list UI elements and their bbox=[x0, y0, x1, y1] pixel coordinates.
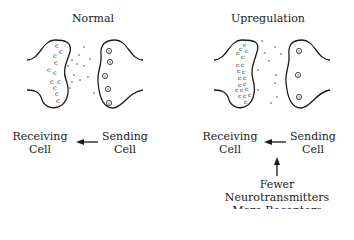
svg-text:c: c bbox=[238, 92, 242, 99]
signal-arrow-normal bbox=[76, 139, 98, 145]
neurotransmitters bbox=[257, 40, 281, 103]
vesicles bbox=[295, 48, 301, 99]
neurotransmitters bbox=[67, 46, 94, 93]
vesicles bbox=[102, 48, 112, 105]
receptors: c c c c c c c c c c c bbox=[47, 42, 63, 105]
svg-text:c: c bbox=[56, 97, 60, 105]
svg-text:c: c bbox=[47, 66, 51, 74]
sending-cell-label-upregulation: Sending Cell bbox=[288, 130, 338, 156]
svg-text:c: c bbox=[248, 91, 252, 98]
svg-text:c: c bbox=[244, 98, 248, 105]
upregulation-annotation: Fewer Neurotransmitters More Receptors bbox=[207, 178, 347, 209]
sending-cell-label-normal: Sending Cell bbox=[100, 130, 150, 156]
svg-text:c: c bbox=[59, 48, 63, 56]
receiving-cell-label-normal: Receiving Cell bbox=[10, 130, 70, 156]
receiving-cell-label-upregulation: Receiving Cell bbox=[200, 130, 260, 156]
svg-text:c: c bbox=[241, 53, 245, 60]
sending-cell-membrane bbox=[286, 40, 330, 108]
svg-text:c: c bbox=[54, 59, 58, 67]
svg-text:c: c bbox=[237, 67, 241, 74]
signal-arrow-upregulation bbox=[264, 139, 286, 145]
svg-text:c: c bbox=[57, 78, 61, 86]
svg-text:c: c bbox=[245, 47, 249, 54]
receptors: c c c c c c c c c c c c c c c c c c c c bbox=[235, 41, 252, 105]
svg-text:c: c bbox=[238, 74, 242, 81]
svg-text:c: c bbox=[53, 69, 57, 77]
svg-text:c: c bbox=[241, 61, 245, 68]
sending-cell-membrane bbox=[98, 40, 143, 108]
annotation-arrow bbox=[274, 157, 280, 176]
